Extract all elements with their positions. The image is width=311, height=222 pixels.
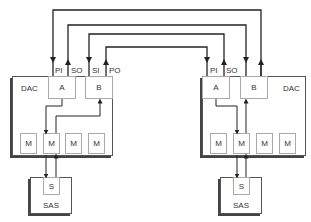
internal-wires xyxy=(0,0,311,222)
diagram-canvas: DAC A B PI SO SI PO M M M M S SAS DAC A … xyxy=(0,0,311,222)
